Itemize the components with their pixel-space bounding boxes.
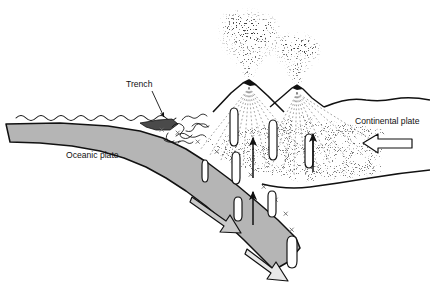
label-oceanic-plate: Oceanic plate	[66, 150, 119, 160]
subduction-zone-figure: Trench Oceanic plate Continental plate	[0, 0, 430, 292]
sea-surface-line	[16, 116, 176, 121]
label-continental-plate: Continental plate	[355, 116, 420, 126]
trench-wedge	[140, 119, 178, 130]
volcano-cone-right	[270, 85, 324, 107]
ash-plume-left	[217, 7, 283, 79]
label-trench: Trench	[126, 79, 153, 89]
trench-leader-line	[152, 91, 164, 117]
diagram-canvas: Trench Oceanic plate Continental plate	[0, 0, 430, 292]
ash-plume-right	[274, 31, 322, 85]
